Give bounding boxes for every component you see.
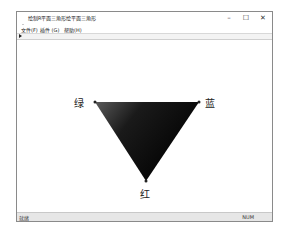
play-arrow-icon[interactable]	[19, 34, 22, 38]
drawing-canvas[interactable]: 绿 蓝 红	[17, 40, 272, 214]
minimize-button[interactable]: –	[222, 13, 236, 23]
app-icon	[20, 15, 26, 21]
menu-bar: 文件(F) 插件 (G) 帮助(H)	[17, 25, 272, 33]
toolbar	[17, 33, 272, 40]
menu-file[interactable]: 文件(F)	[21, 26, 38, 33]
close-button[interactable]: ✕	[256, 13, 270, 23]
menu-help[interactable]: 帮助(H)	[64, 26, 82, 33]
vertex-label-red: 红	[140, 186, 150, 201]
menu-plugin[interactable]: 插件 (G)	[40, 26, 59, 33]
app-window: 绘制R平面三角形绘平面三角形 – ☐ ✕ 文件(F) 插件 (G) 帮助(H) …	[16, 11, 273, 222]
title-bar[interactable]: 绘制R平面三角形绘平面三角形 – ☐ ✕	[17, 12, 272, 25]
status-bar: 就绪 NUM	[17, 212, 272, 221]
vertex-label-green: 绿	[74, 95, 84, 110]
window-title: 绘制R平面三角形绘平面三角形	[28, 14, 96, 21]
vertex-label-blue: 蓝	[205, 95, 215, 110]
status-num-lock: NUM	[242, 214, 254, 220]
maximize-button[interactable]: ☐	[239, 13, 253, 23]
status-ready: 就绪	[19, 214, 29, 221]
